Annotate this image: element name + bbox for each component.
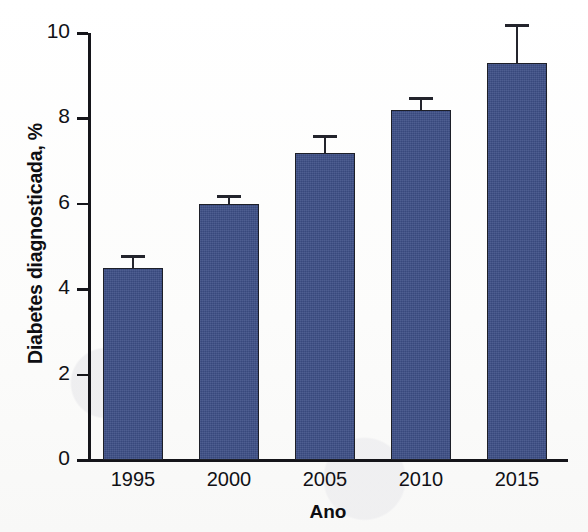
bar-group[interactable] — [103, 33, 163, 460]
bar-group[interactable] — [391, 33, 451, 460]
bar-chart-figure: 1086420 Diabetes diagnosticada, % Ano 19… — [0, 0, 588, 532]
y-axis-tick-label: 10 — [28, 19, 70, 43]
x-axis-title: Ano — [88, 501, 568, 523]
y-axis-tick-mark — [77, 32, 88, 35]
x-axis-tick-label: 2005 — [285, 468, 365, 491]
y-axis-tick-mark — [77, 117, 88, 120]
error-bar-cap — [505, 24, 529, 27]
bar[interactable] — [295, 153, 355, 460]
bar[interactable] — [487, 63, 547, 460]
error-bar-stem — [324, 135, 327, 152]
error-bar-cap — [217, 195, 241, 198]
y-axis-tick-mark — [77, 459, 88, 462]
x-axis-tick-label: 2000 — [189, 468, 269, 491]
error-bar-cap — [313, 135, 337, 138]
bar[interactable] — [199, 204, 259, 460]
bar[interactable] — [103, 268, 163, 460]
y-axis-tick-mark — [77, 374, 88, 377]
y-axis-tick-mark — [77, 288, 88, 291]
error-bar-stem — [516, 24, 519, 62]
bar-group[interactable] — [199, 33, 259, 460]
x-axis-tick-label: 2015 — [477, 468, 557, 491]
bar[interactable] — [391, 110, 451, 460]
error-bar-cap — [409, 97, 433, 100]
x-axis-tick-label: 2010 — [381, 468, 461, 491]
error-bar-cap — [121, 255, 145, 258]
bar-group[interactable] — [487, 33, 547, 460]
x-axis-tick-label: 1995 — [93, 468, 173, 491]
y-axis-tick-label: 0 — [28, 446, 70, 470]
plot-area — [88, 33, 568, 460]
y-axis-title: Diabetes diagnosticada, % — [24, 94, 47, 394]
y-axis-tick-mark — [77, 203, 88, 206]
bar-group[interactable] — [295, 33, 355, 460]
